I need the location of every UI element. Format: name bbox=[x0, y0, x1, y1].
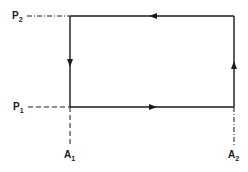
arrow-right-icon bbox=[149, 104, 157, 110]
p1-label: P1 bbox=[13, 101, 24, 114]
a2-label: A2 bbox=[228, 149, 239, 162]
arrow-down-icon bbox=[67, 59, 73, 67]
arrow-up-icon bbox=[231, 61, 237, 69]
cycle-diagram: P2 P1 A1 A2 bbox=[0, 0, 248, 172]
a1-label: A1 bbox=[64, 149, 75, 162]
p2-label: P2 bbox=[12, 10, 23, 23]
arrow-left-icon bbox=[149, 13, 157, 19]
